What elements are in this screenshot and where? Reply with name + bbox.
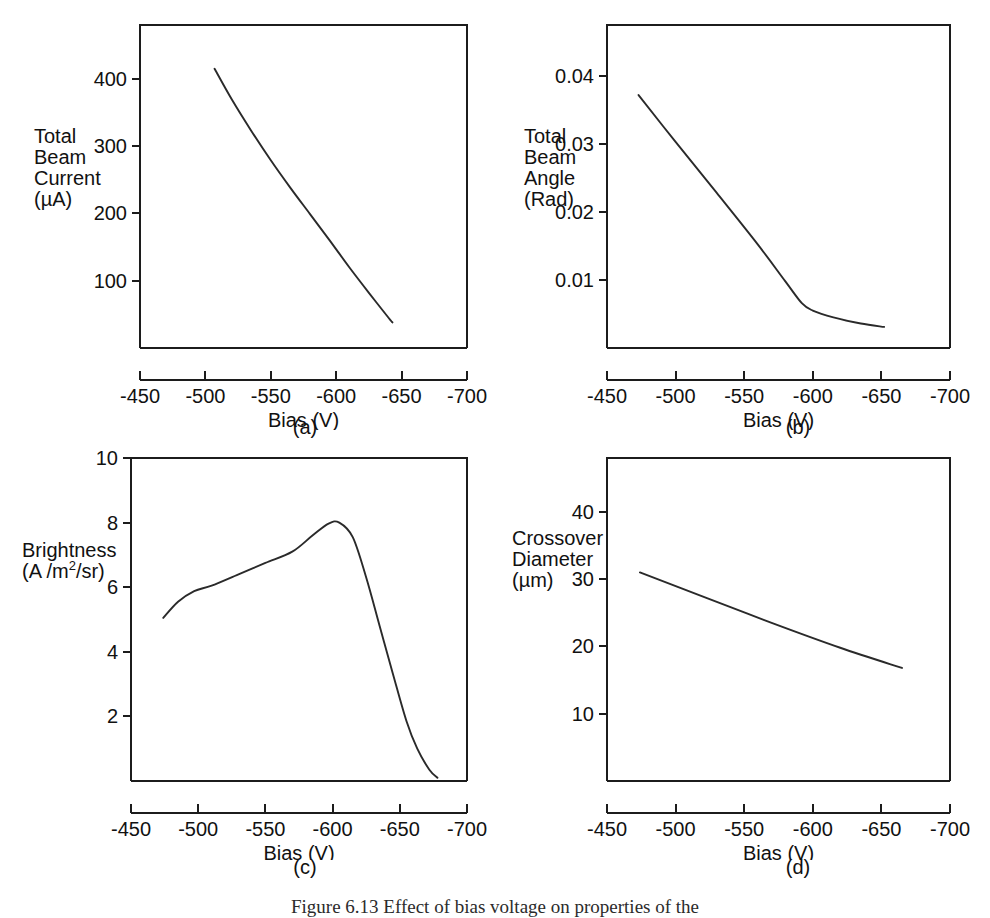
svg-text:-700: -700 bbox=[447, 818, 487, 840]
y-axis-label-line: Total bbox=[524, 126, 576, 147]
svg-text:0.04: 0.04 bbox=[555, 65, 594, 87]
svg-text:-500: -500 bbox=[656, 818, 696, 840]
panel-letter-c: (c) bbox=[275, 856, 335, 879]
svg-text:-650: -650 bbox=[861, 385, 901, 407]
svg-text:-550: -550 bbox=[251, 385, 291, 407]
y-axis-label-line: Beam bbox=[34, 147, 101, 168]
svg-text:-450: -450 bbox=[587, 818, 627, 840]
y-axis-label-line: (A /m2/sr) bbox=[22, 561, 117, 582]
chart-a-y-axis-label: TotalBeamCurrent(µA) bbox=[34, 126, 101, 210]
svg-text:-600: -600 bbox=[793, 818, 833, 840]
svg-text:-700: -700 bbox=[930, 385, 970, 407]
svg-text:-650: -650 bbox=[382, 385, 422, 407]
svg-text:-650: -650 bbox=[380, 818, 420, 840]
y-axis-label-line: (Rad) bbox=[524, 189, 576, 210]
svg-text:-450: -450 bbox=[587, 385, 627, 407]
svg-text:-550: -550 bbox=[724, 818, 764, 840]
svg-text:8: 8 bbox=[107, 512, 118, 534]
y-axis-label-line: Crossover bbox=[512, 528, 603, 549]
y-axis-label-line: Angle bbox=[524, 168, 576, 189]
svg-text:-650: -650 bbox=[861, 818, 901, 840]
y-axis-label-line: Total bbox=[34, 126, 101, 147]
svg-text:4: 4 bbox=[107, 641, 118, 663]
svg-text:-600: -600 bbox=[316, 385, 356, 407]
svg-text:10: 10 bbox=[96, 447, 118, 469]
svg-text:-450: -450 bbox=[111, 818, 151, 840]
chart-panel-b: 0.010.020.030.04-450-500-550-600-650-700… bbox=[495, 0, 990, 430]
chart-d-svg: 10203040-450-500-550-600-650-700Bias (V) bbox=[495, 440, 990, 860]
svg-text:-550: -550 bbox=[245, 818, 285, 840]
svg-text:0.01: 0.01 bbox=[555, 269, 594, 291]
svg-text:400: 400 bbox=[94, 68, 127, 90]
chart-panel-a: 100200300400-450-500-550-600-650-700Bias… bbox=[0, 0, 495, 430]
svg-text:-600: -600 bbox=[313, 818, 353, 840]
chart-c-svg: 246810-450-500-550-600-650-700Bias (V) bbox=[0, 440, 495, 860]
svg-text:-500: -500 bbox=[656, 385, 696, 407]
svg-text:-500: -500 bbox=[178, 818, 218, 840]
svg-text:-700: -700 bbox=[930, 818, 970, 840]
panel-letter-a: (a) bbox=[275, 416, 335, 439]
svg-text:20: 20 bbox=[572, 635, 594, 657]
svg-text:2: 2 bbox=[107, 705, 118, 727]
panel-letter-b: (b) bbox=[768, 416, 828, 439]
svg-text:-550: -550 bbox=[724, 385, 764, 407]
chart-b-svg: 0.010.020.030.04-450-500-550-600-650-700… bbox=[495, 0, 990, 430]
svg-text:40: 40 bbox=[572, 501, 594, 523]
figure-caption: Figure 6.13 Effect of bias voltage on pr… bbox=[0, 896, 990, 918]
svg-text:-450: -450 bbox=[120, 385, 160, 407]
chart-panel-d: 10203040-450-500-550-600-650-700Bias (V) bbox=[495, 440, 990, 860]
svg-text:10: 10 bbox=[572, 703, 594, 725]
svg-text:-700: -700 bbox=[447, 385, 487, 407]
chart-b-y-axis-label: TotalBeamAngle(Rad) bbox=[524, 126, 576, 210]
chart-panel-c: 246810-450-500-550-600-650-700Bias (V) bbox=[0, 440, 495, 860]
y-axis-label-line: Beam bbox=[524, 147, 576, 168]
svg-text:-500: -500 bbox=[185, 385, 225, 407]
y-axis-label-line: Diameter bbox=[512, 549, 603, 570]
panel-letter-d: (d) bbox=[768, 856, 828, 879]
svg-text:-600: -600 bbox=[793, 385, 833, 407]
chart-d-y-axis-label: CrossoverDiameter(µm) bbox=[512, 528, 603, 591]
chart-a-svg: 100200300400-450-500-550-600-650-700Bias… bbox=[0, 0, 495, 430]
chart-c-y-axis-label: Brightness(A /m2/sr) bbox=[22, 540, 117, 582]
y-axis-label-line: (µA) bbox=[34, 189, 101, 210]
y-axis-label-line: Current bbox=[34, 168, 101, 189]
svg-text:100: 100 bbox=[94, 270, 127, 292]
y-axis-label-line: (µm) bbox=[512, 570, 603, 591]
